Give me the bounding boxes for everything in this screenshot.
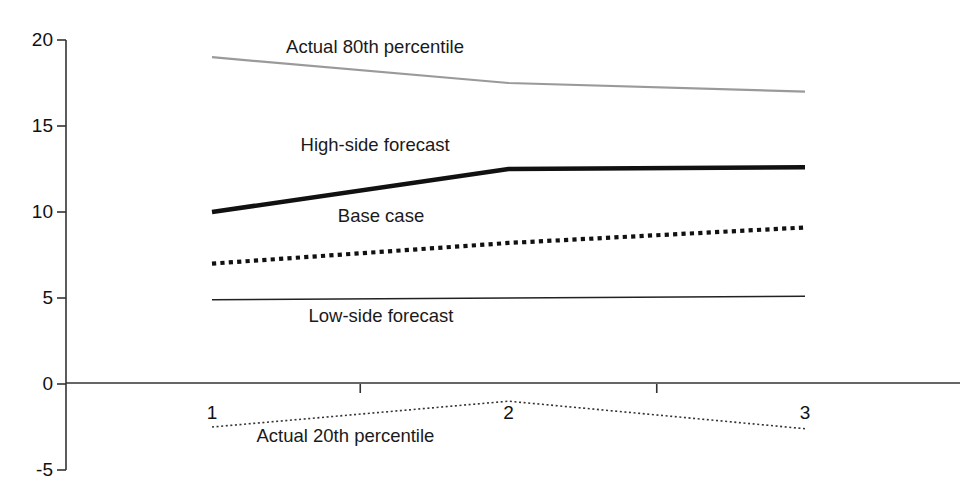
x-axis-tick-label: 2	[503, 402, 514, 424]
series-label: High-side forecast	[301, 134, 450, 156]
y-axis-tick-label: 10	[8, 201, 53, 223]
chart-plot-area	[0, 0, 973, 497]
series-label: Actual 20th percentile	[256, 425, 434, 447]
series-line	[212, 167, 805, 212]
series-label: Actual 80th percentile	[286, 36, 464, 58]
x-axis-tick-label: 3	[800, 402, 811, 424]
y-axis-tick-label: 15	[8, 115, 53, 137]
y-axis-ticks	[57, 40, 66, 470]
series-line	[212, 296, 805, 299]
y-axis-tick-label: 5	[8, 287, 53, 309]
y-axis-tick-label: 20	[8, 29, 53, 51]
data-series-group	[212, 57, 805, 429]
series-label: Base case	[338, 205, 424, 227]
y-axis-tick-label: -5	[8, 459, 53, 481]
series-line	[212, 57, 805, 91]
series-line	[212, 227, 805, 263]
series-label: Low-side forecast	[309, 305, 454, 327]
y-axis-tick-label: 0	[8, 373, 53, 395]
chart-container: 20151050-5 123 Actual 80th percentileHig…	[0, 0, 973, 497]
x-axis-tick-label: 1	[207, 402, 218, 424]
x-axis-ticks	[360, 384, 657, 393]
